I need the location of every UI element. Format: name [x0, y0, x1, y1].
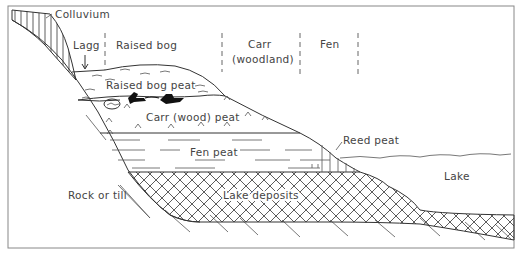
colluvium-layer: [12, 10, 76, 80]
label-colluvium: Colluvium: [55, 8, 110, 20]
label-raised-bog: Raised bog: [116, 39, 177, 51]
label-fen-peat: Fen peat: [190, 146, 238, 158]
lake-deposits-layer: [128, 172, 514, 240]
label-fen: Fen: [320, 38, 339, 50]
label-lake: Lake: [444, 170, 470, 182]
label-carr: Carr: [248, 38, 272, 50]
label-raised-bog-peat: Raised bog peat: [106, 79, 196, 91]
hydrosere-diagram: Colluvium Lagg Raised bog Carr (woodland…: [0, 0, 521, 255]
label-rock-or-till: Rock or till: [68, 189, 127, 201]
lagg-arrow: [82, 55, 88, 69]
label-reed-peat: Reed peat: [343, 134, 399, 146]
label-lagg: Lagg: [73, 39, 100, 51]
lake-surface: [340, 154, 511, 158]
label-carr-peat: Carr (wood) peat: [146, 111, 240, 123]
label-carr-woodland: (woodland): [232, 53, 294, 65]
label-lake-deposits: Lake deposits: [223, 189, 299, 201]
